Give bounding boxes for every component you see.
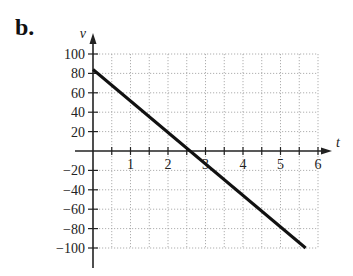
y-tick-label: 80 <box>71 66 85 81</box>
y-tick-label: 20 <box>71 125 85 140</box>
x-axis-label: t <box>336 135 341 150</box>
data-series <box>93 70 306 248</box>
y-tick-label: −60 <box>63 202 85 217</box>
velocity-time-chart: 12345610080604020−20−40−60−80−100tv <box>0 0 353 276</box>
axes <box>75 33 332 268</box>
x-tick-label: 1 <box>127 157 134 172</box>
x-tick-label: 2 <box>165 157 172 172</box>
y-axis-arrow-icon <box>90 33 97 44</box>
x-tick-label: 6 <box>315 157 322 172</box>
y-tick-label: −100 <box>56 241 85 256</box>
y-axis-label: v <box>80 26 87 41</box>
x-tick-label: 4 <box>240 157 247 172</box>
y-tick-label: 100 <box>64 47 85 62</box>
x-axis-arrow-icon <box>321 148 332 155</box>
velocity-line <box>93 70 306 248</box>
x-tick-label: 5 <box>277 157 284 172</box>
y-tick-label: −80 <box>63 222 85 237</box>
y-tick-label: −20 <box>63 163 85 178</box>
y-tick-label: 40 <box>71 105 85 120</box>
y-tick-label: −40 <box>63 183 85 198</box>
tick-labels: 12345610080604020−20−40−60−80−100tv <box>56 26 341 256</box>
y-tick-label: 60 <box>71 86 85 101</box>
